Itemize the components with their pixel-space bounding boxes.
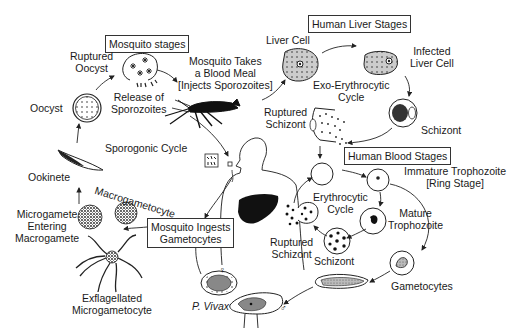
human-liver-stages-box: Human Liver Stages [308, 15, 411, 33]
liver-ruptured-line2: Schizont [264, 118, 307, 130]
infected-line1: Infected [410, 45, 454, 57]
release-sporozoites-line2: Sporozoites [111, 103, 166, 115]
liver-cell-label: Liver Cell [266, 34, 310, 46]
gametocyte-in-cell-icon [390, 251, 414, 275]
mosquito-icon [165, 99, 240, 128]
immature-line1: Immature Trophozoite [404, 165, 506, 177]
mosquito-ingests-line2: Gametocytes [151, 233, 230, 245]
blood-meal-label: Mosquito Takes a Blood Meal [Injects Spo… [178, 55, 273, 91]
oocyst-label: Oocyst [30, 102, 63, 114]
blood-ruptured-line1: Ruptured [270, 236, 313, 248]
exo-erythrocytic-cycle-label: Exo-Erythrocytic Cycle [313, 79, 389, 103]
microgamete-line1: Microgamete [15, 208, 79, 220]
blood-meal-line1: Mosquito Takes [178, 55, 273, 67]
immature-line2: [Ring Stage] [404, 177, 506, 189]
exo-line2: Cycle [313, 91, 389, 103]
ookinete-icon [58, 150, 103, 170]
p-vivax-label: P. Vivax [192, 300, 229, 312]
ruptured-oocyst-line1: Ruptured [70, 50, 113, 62]
exflagellated-microgametocyte-icon [76, 235, 142, 292]
male-gametocyte-icon [230, 293, 283, 314]
gametocytes-label: Gametocytes [391, 280, 453, 292]
human-blood-stages-box: Human Blood Stages [344, 147, 451, 165]
microgamete-line3: Macrogamete [15, 232, 79, 244]
mature-line1: Mature [388, 207, 443, 219]
exflagellated-line2: Microgametocyte [72, 304, 152, 316]
ookinete-label: Ookinete [28, 171, 70, 183]
erythrocytic-line1: Erythrocytic [313, 191, 368, 203]
infected-liver-cell-label: Infected Liver Cell [410, 45, 454, 69]
elongated-gametocyte-icon [315, 274, 368, 288]
release-sporozoites-line1: Release of [111, 91, 166, 103]
microgamete-line2: Entering [15, 220, 79, 232]
blood-ruptured-schizont-label: Ruptured Schizont [270, 236, 313, 260]
blood-ruptured-line2: Schizont [270, 248, 313, 260]
liver-ruptured-schizont-icon [310, 108, 347, 145]
liver-cell-icon [283, 49, 318, 81]
release-sporozoites-label: Release of Sporozoites [111, 91, 166, 115]
infected-line2: Liver Cell [410, 57, 454, 69]
ring-stage-icon [367, 169, 389, 191]
blood-meal-line3: [Injects Sporozoites] [178, 79, 273, 91]
immature-trophozoite-label: Immature Trophozoite [Ring Stage] [404, 165, 506, 189]
blood-meal-line2: a Blood Meal [178, 67, 273, 79]
liver-schizont-icon [389, 99, 417, 127]
female-symbol: ♀ [219, 264, 226, 276]
exflagellated-label: Exflagellated Microgametocyte [72, 292, 152, 316]
ruptured-oocyst-line2: Oocyst [70, 62, 113, 74]
erythrocytic-line2: Cycle [313, 203, 368, 215]
mature-trophozoite-label: Mature Trophozoite [388, 207, 443, 231]
red-blood-cell-icon [311, 163, 333, 185]
ruptured-oocyst-icon [123, 53, 158, 87]
male-symbol: ♂ [280, 302, 287, 314]
ruptured-oocyst-label: Ruptured Oocyst [70, 50, 113, 74]
mosquito-stages-box: Mosquito stages [105, 35, 189, 53]
erythrocytic-cycle-label: Erythrocytic Cycle [313, 191, 368, 215]
microgamete-entering-label: Microgamete Entering Macrogamete [15, 208, 79, 244]
mosquito-ingests-line1: Mosquito Ingests [151, 221, 230, 233]
blood-schizont-label: Schizont [314, 255, 354, 267]
liver-ruptured-schizont-label: Ruptured Schizont [264, 106, 307, 130]
human-liver-icon [238, 194, 278, 224]
mosquito-ingests-gametocytes-box: Mosquito Ingests Gametocytes [147, 218, 234, 248]
blood-schizont-icon [324, 228, 350, 254]
oocyst-icon [73, 94, 101, 122]
liver-schizont-label: Schizont [421, 124, 461, 136]
sporogonic-cycle-label: Sporogonic Cycle [105, 142, 187, 154]
microgamete-macrogamete-icon [78, 205, 102, 229]
exflagellated-line1: Exflagellated [72, 292, 152, 304]
exo-line1: Exo-Erythrocytic [313, 79, 389, 91]
mature-line2: Trophozoite [388, 219, 443, 231]
infected-liver-cell-icon [364, 51, 398, 74]
liver-ruptured-line1: Ruptured [264, 106, 307, 118]
malaria-life-cycle-diagram: Mosquito stages Human Liver Stages Human… [0, 0, 517, 328]
